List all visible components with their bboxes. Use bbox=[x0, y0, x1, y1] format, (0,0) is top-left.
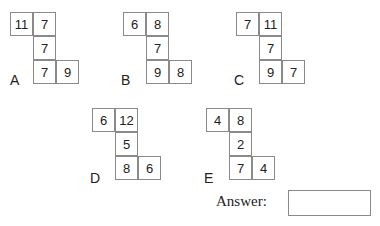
puzzle-label: D bbox=[90, 170, 100, 186]
cell-top-right: 11 bbox=[259, 12, 282, 36]
cell-top-left: 7 bbox=[236, 12, 259, 36]
cell-bottom-right: 9 bbox=[56, 60, 79, 84]
cell-middle: 7 bbox=[259, 36, 282, 60]
cell-top-left: 11 bbox=[10, 12, 33, 36]
cell-bottom-right: 4 bbox=[252, 156, 275, 180]
cell-top-right: 8 bbox=[229, 108, 252, 132]
answer-input[interactable] bbox=[288, 190, 371, 216]
puzzle-label: C bbox=[234, 72, 244, 88]
cell-bottom-left: 7 bbox=[229, 156, 252, 180]
cell-top-right: 7 bbox=[33, 12, 56, 36]
cell-middle: 7 bbox=[146, 36, 169, 60]
cell-bottom-left: 9 bbox=[259, 60, 282, 84]
cell-bottom-left: 8 bbox=[115, 156, 138, 180]
cell-top-right: 12 bbox=[115, 108, 138, 132]
cell-middle: 7 bbox=[33, 36, 56, 60]
cell-top-left: 4 bbox=[206, 108, 229, 132]
puzzle-label: B bbox=[121, 72, 130, 88]
cell-bottom-left: 9 bbox=[146, 60, 169, 84]
cell-middle: 2 bbox=[229, 132, 252, 156]
cell-bottom-left: 7 bbox=[33, 60, 56, 84]
puzzle-label: A bbox=[10, 72, 19, 88]
cell-bottom-right: 8 bbox=[169, 60, 192, 84]
cell-top-left: 6 bbox=[92, 108, 115, 132]
answer-label: Answer: bbox=[216, 193, 267, 210]
cell-top-right: 8 bbox=[146, 12, 169, 36]
cell-top-left: 6 bbox=[123, 12, 146, 36]
cell-bottom-right: 6 bbox=[138, 156, 161, 180]
puzzle-label: E bbox=[204, 170, 213, 186]
cell-bottom-right: 7 bbox=[282, 60, 305, 84]
cell-middle: 5 bbox=[115, 132, 138, 156]
